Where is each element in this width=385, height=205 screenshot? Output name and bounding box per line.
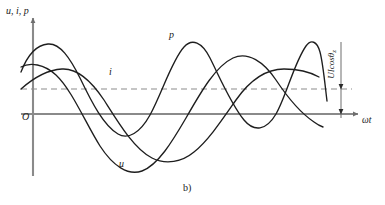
waveform-figure: u, i, p ωt O p i u UIcosθz b) [0, 0, 385, 205]
curve-label-u: u [119, 159, 124, 169]
figure-caption: b) [183, 183, 191, 193]
waveform-plot-svg [0, 0, 385, 205]
curve-i-current [21, 69, 319, 162]
average-power-subscript: z [330, 50, 338, 53]
average-power-expression: UIcosθ [326, 53, 336, 79]
curve-label-p: p [169, 30, 174, 40]
x-axis-label: ωt [362, 116, 371, 126]
y-axis-label: u, i, p [6, 6, 29, 16]
average-power-label: UIcosθz [327, 50, 338, 79]
origin-label: O [22, 112, 29, 122]
curve-label-i: i [109, 67, 112, 77]
